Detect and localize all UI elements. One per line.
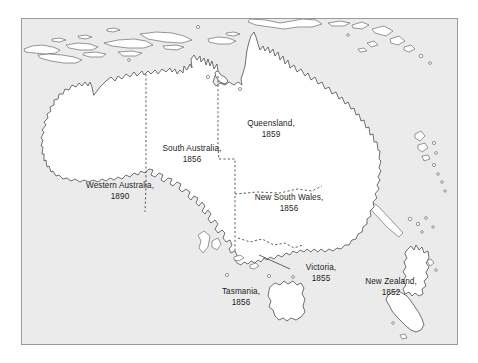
indonesian-archipelago (24, 25, 200, 63)
tasmania-island (268, 276, 305, 321)
map-frame: Western Australia, 1890 South Australia,… (21, 18, 458, 345)
australia-mainland (41, 32, 381, 278)
map-canvas (22, 19, 457, 344)
new-zealand-north-island (403, 245, 437, 296)
new-guinea (208, 19, 350, 44)
map-figure: Western Australia, 1890 South Australia,… (0, 0, 478, 363)
new-zealand-south-island (386, 291, 424, 339)
